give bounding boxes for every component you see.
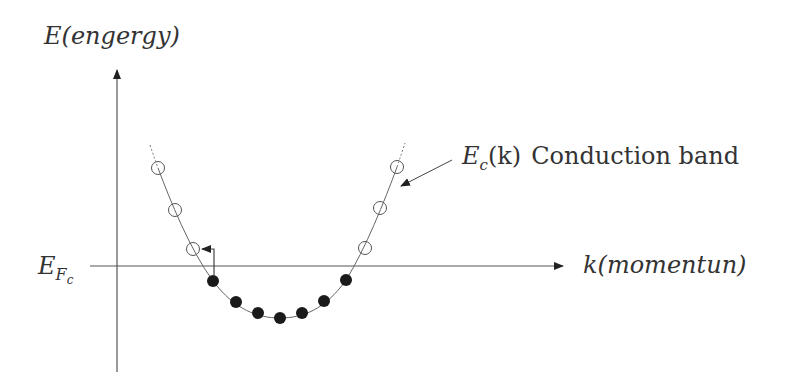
band-curve-dotted-left (150, 145, 158, 168)
band-pointer-arrow (401, 160, 452, 186)
x-axis-label: k(momentun) (583, 251, 746, 279)
conduction-band-label: Ec(k)Conduction band (461, 142, 739, 174)
fermi-level-label: EFc (37, 252, 74, 287)
filled-state-dot (318, 295, 330, 307)
filled-states (207, 274, 352, 324)
filled-state-dot (340, 274, 352, 286)
band-diagram: E(engergy) k(momentun) EFc Ec(k)Conducti… (0, 0, 786, 388)
empty-state-circle (359, 242, 372, 255)
transition-arrow (202, 249, 214, 276)
y-axis-label: E(engergy) (43, 22, 180, 50)
filled-state-dot (230, 296, 242, 308)
filled-state-dot (252, 307, 264, 319)
filled-state-dot (207, 275, 219, 287)
band-curve-dotted-right (397, 143, 405, 167)
empty-state-circle (374, 202, 387, 215)
filled-state-dot (274, 312, 286, 324)
filled-state-dot (296, 307, 308, 319)
